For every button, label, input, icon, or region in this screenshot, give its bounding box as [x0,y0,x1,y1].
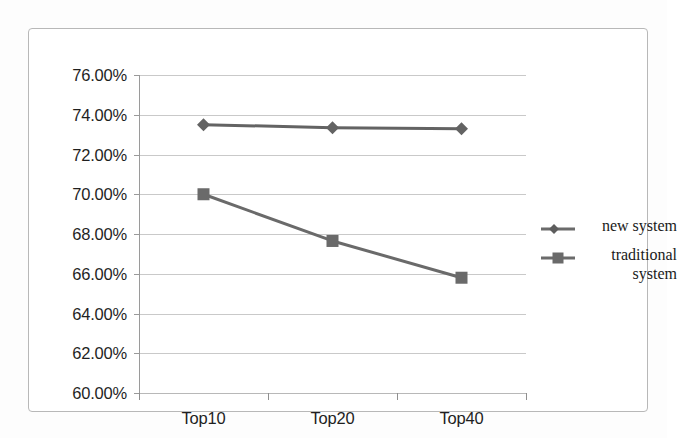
y-axis-tick-label: 64.00% [72,304,127,323]
diamond-marker-icon [541,220,575,238]
data-point-marker[interactable] [456,272,468,284]
x-axis-category-label: Top10 [182,409,226,428]
plot-area: 76.00%74.00%72.00%70.00%68.00%66.00%64.0… [139,75,526,393]
legend-label-traditional-system: traditional system [575,246,677,284]
data-point-marker[interactable] [198,188,210,200]
x-axis-tick [397,393,398,400]
legend-item-traditional-system[interactable]: traditional system [541,246,677,284]
data-point-marker[interactable] [455,122,468,135]
y-axis-tick-label: 62.00% [72,344,127,363]
y-axis-tick-label: 74.00% [72,105,127,124]
legend-item-new-system[interactable]: new system [541,217,677,238]
y-axis-tick-label: 76.00% [72,66,127,85]
y-axis-tick-label: 72.00% [72,145,127,164]
data-point-marker[interactable] [327,235,339,247]
chart-legend: new system traditional system [541,217,677,292]
data-point-marker[interactable] [197,118,210,131]
y-axis-tick-label: 66.00% [72,264,127,283]
x-axis-category-label: Top20 [311,409,355,428]
y-axis-tick-label: 60.00% [72,384,127,403]
chart-frame: 76.00%74.00%72.00%70.00%68.00%66.00%64.0… [28,28,648,412]
legend-label-new-system: new system [575,217,677,236]
series-layer [139,75,526,393]
square-marker-icon [541,249,575,267]
y-axis-tick-label: 70.00% [72,185,127,204]
x-axis-tick [526,393,527,400]
x-axis-tick [268,393,269,400]
y-axis-tick-label: 68.00% [72,225,127,244]
gridline [139,393,526,394]
x-axis-category-label: Top40 [440,409,484,428]
data-point-marker[interactable] [326,121,339,134]
x-axis-tick [139,393,140,400]
